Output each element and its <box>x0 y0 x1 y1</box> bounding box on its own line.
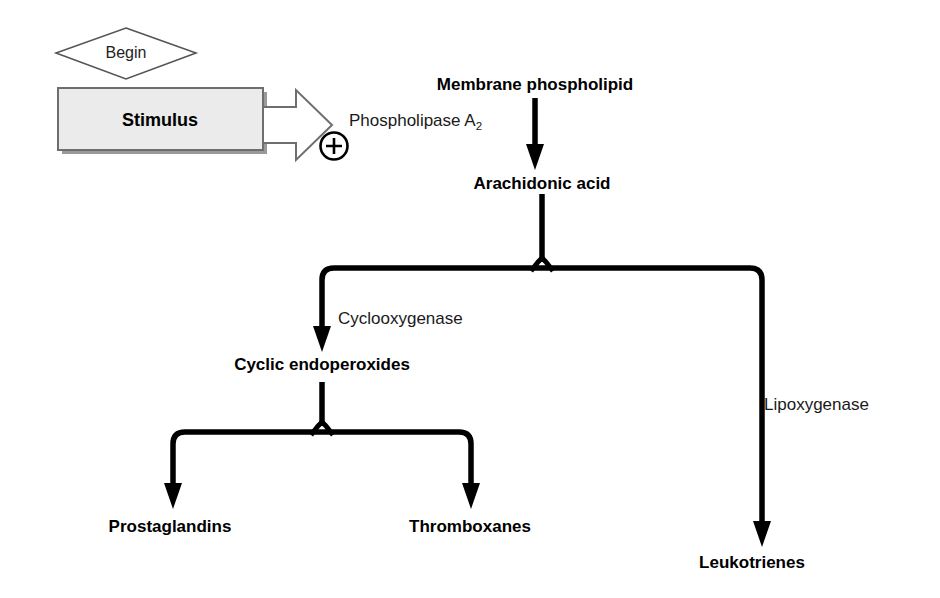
branch-cyclic-endoperoxides <box>173 382 471 495</box>
arrowhead-to-prostaglandins <box>164 483 182 509</box>
arrow-membrane-to-arachidonic <box>526 98 544 170</box>
begin-node-label: Begin <box>106 45 147 61</box>
phospholipase-name: Phospholipase A <box>349 111 476 130</box>
lipoxygenase-enzyme-label: Lipoxygenase <box>764 396 869 413</box>
thromboxanes-label: Thromboxanes <box>409 518 531 535</box>
phospholipase-subscript: 2 <box>476 120 482 132</box>
stimulus-node-label: Stimulus <box>122 111 198 129</box>
membrane-phospholipid-label: Membrane phospholipid <box>437 76 633 93</box>
cyclic-endoperoxides-label: Cyclic endoperoxides <box>234 356 410 373</box>
prostaglandins-label: Prostaglandins <box>109 518 232 535</box>
arrowhead-to-thromboxanes <box>462 483 480 509</box>
cyclooxygenase-enzyme-label: Cyclooxygenase <box>338 310 463 327</box>
arachidonic-acid-label: Arachidonic acid <box>474 175 611 192</box>
arrowhead-to-leukotrienes <box>753 521 771 547</box>
phospholipase-a2-enzyme-label: Phospholipase A2 <box>349 112 482 133</box>
leukotrienes-label: Leukotrienes <box>699 554 805 571</box>
diagram-canvas: Begin Stimulus Membrane phospholipid Pho… <box>0 0 940 598</box>
arrowhead-to-cyclic-endoperoxides <box>313 326 331 352</box>
